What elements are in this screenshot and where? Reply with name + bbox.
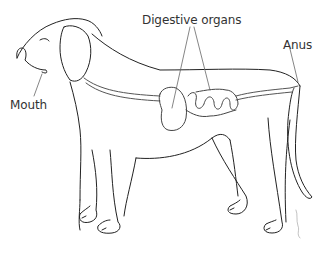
dog-hind-leg-2	[264, 118, 283, 233]
dog-throat	[70, 82, 81, 200]
esophagus	[84, 78, 160, 101]
label-anus: Anus	[283, 38, 312, 52]
colon	[236, 86, 298, 100]
leader-mouth	[34, 74, 42, 96]
label-digestive-organs: Digestive organs	[142, 13, 241, 27]
dog-front-leg-2	[98, 150, 120, 233]
dog-back	[92, 34, 300, 86]
intestines	[186, 89, 238, 116]
leader-digestive-organs-stomach	[172, 27, 190, 108]
dog-hind-leg-1	[212, 138, 247, 214]
label-mouth: Mouth	[10, 98, 47, 112]
dog-paw-toes	[82, 208, 270, 230]
dog-eye	[40, 39, 49, 41]
dog-tail	[288, 86, 312, 198]
dog-hind-leg-1-front	[230, 140, 238, 196]
stomach	[159, 87, 186, 130]
leader-digestive-organs-intestines	[194, 27, 210, 90]
dog-ear	[60, 26, 91, 81]
artist-signature	[296, 210, 300, 238]
dog-muzzle	[17, 48, 47, 73]
dog-front-leg-1	[79, 150, 96, 223]
dog-front-leg-2-back	[124, 158, 136, 216]
